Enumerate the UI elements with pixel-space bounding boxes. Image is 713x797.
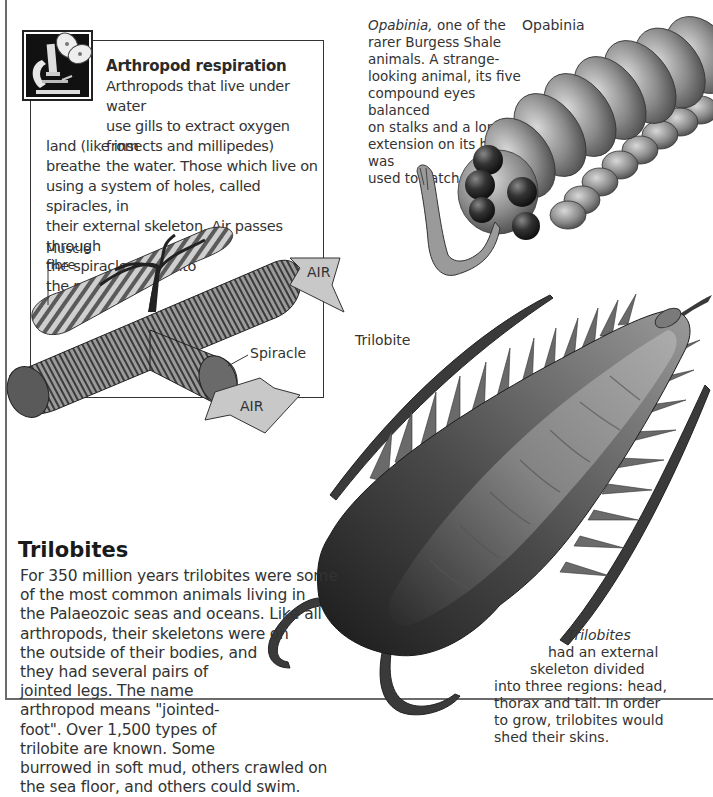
text-line: the Palaeozoic seas and oceans. Like all: [20, 605, 338, 624]
text-line: they had several pairs of: [20, 663, 338, 682]
text-line: shed their skins.: [490, 729, 710, 746]
trilobite-caption-italic: Trilobites: [490, 627, 710, 644]
text-line: skeleton divided: [490, 661, 710, 678]
text-line: foot". Over 1,500 types of: [20, 721, 338, 740]
text-line: the outside of their bodies, and: [20, 644, 338, 663]
text-line: arthropod means "jointed-: [20, 701, 338, 720]
text-line: into three regions: head,: [490, 678, 710, 695]
text-line: trilobite are known. Some: [20, 740, 338, 759]
text-line: jointed legs. The name: [20, 682, 338, 701]
text-line: burrowed in soft mud, others crawled on: [20, 759, 338, 778]
trilobite-caption: Trilobites had an external skeleton divi…: [490, 627, 710, 746]
text-line: thorax and tail. In order: [490, 695, 710, 712]
text-line: of the most common animals living in: [20, 586, 338, 605]
text-line: the sea floor, and others could swim.: [20, 778, 338, 797]
text-line: arthropods, their skeletons were on: [20, 625, 338, 644]
trilobites-heading: Trilobites: [18, 538, 128, 562]
trilobites-body: For 350 million years trilobites were so…: [20, 567, 338, 797]
text-line: had an external: [490, 644, 710, 661]
text-line: to grow, trilobites would: [490, 712, 710, 729]
text-line: For 350 million years trilobites were so…: [20, 567, 338, 586]
